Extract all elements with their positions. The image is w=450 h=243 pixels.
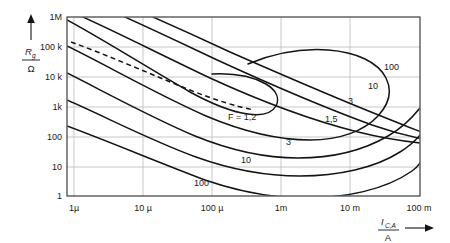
contour-label-f-1p5: 1,5 bbox=[325, 114, 338, 124]
contour-label-f-3-lower: 3 bbox=[286, 137, 291, 147]
x-tick-label-1u: 1µ bbox=[69, 203, 79, 213]
x-axis-title-group: I C,A A bbox=[378, 216, 434, 243]
noise-figure-contour-chart: 1M 100 k 10 k 1k 100 10 1 1µ 10 µ 100 µ … bbox=[0, 0, 450, 243]
up-arrow-icon bbox=[27, 14, 35, 23]
y-axis-title-subscript: g bbox=[32, 52, 36, 60]
y-tick-label-10: 10 bbox=[52, 162, 62, 172]
y-tick-label-1k: 1k bbox=[52, 102, 62, 112]
y-tick-label-100k: 100 k bbox=[40, 42, 63, 52]
x-tick-label-100m: 100 m bbox=[406, 203, 431, 213]
x-tick-label-10u: 10 µ bbox=[134, 203, 152, 213]
chart-container: 1M 100 k 10 k 1k 100 10 1 1µ 10 µ 100 µ … bbox=[0, 0, 450, 243]
plot-frame bbox=[67, 17, 420, 196]
y-axis-title-group: R g Ω bbox=[22, 14, 40, 74]
grid-lines bbox=[67, 17, 420, 196]
contour-label-f-100-lower: 100 bbox=[194, 178, 209, 188]
y-axis-tick-labels: 1M 100 k 10 k 1k 100 10 1 bbox=[40, 12, 63, 201]
x-axis-title-numerator: I bbox=[381, 216, 384, 227]
y-tick-label-10k: 10 k bbox=[45, 72, 63, 82]
x-axis-title-subscript: C,A bbox=[385, 222, 396, 229]
x-axis-title-denominator: A bbox=[385, 232, 392, 243]
right-arrow-icon bbox=[425, 224, 434, 232]
x-tick-label-100u: 100 µ bbox=[201, 203, 224, 213]
contour-label-f-3-upper: 3 bbox=[348, 96, 353, 106]
contour-label-f-1p2: F = 1,2 bbox=[228, 112, 256, 122]
contour-label-f-10-upper: 10 bbox=[368, 81, 378, 91]
y-tick-label-1: 1 bbox=[57, 191, 62, 201]
x-tick-label-10m: 10 m bbox=[340, 203, 360, 213]
contour-f-1p5 bbox=[67, 46, 389, 140]
x-axis-tick-labels: 1µ 10 µ 100 µ 1m 10 m 100 m bbox=[69, 203, 432, 213]
y-tick-label-100: 100 bbox=[47, 132, 62, 142]
contour-label-f-100-upper: 100 bbox=[384, 62, 399, 72]
contour-label-f-10-lower: 10 bbox=[241, 155, 251, 165]
y-axis-title-denominator: Ω bbox=[27, 63, 34, 74]
y-axis-title-numerator: R bbox=[25, 46, 32, 57]
x-tick-label-1m: 1m bbox=[275, 203, 288, 213]
contour-group bbox=[67, 0, 424, 198]
y-tick-label-1M: 1M bbox=[49, 12, 62, 22]
